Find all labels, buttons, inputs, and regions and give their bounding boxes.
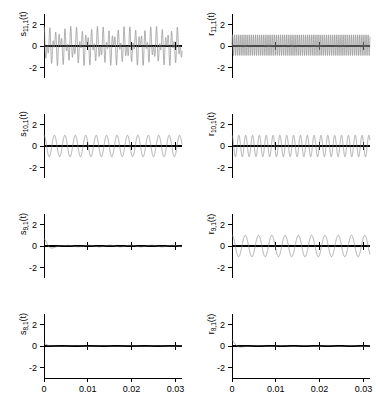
y-tick-label: 0 — [220, 241, 225, 251]
label-subscript: 10,1 — [210, 120, 217, 133]
y-axis-label-r-9-1: r9,1(t) — [206, 174, 220, 274]
label-argument: (t) — [18, 213, 28, 222]
label-subscript: 11,1 — [210, 21, 217, 33]
label-base: s — [18, 32, 28, 37]
signal-panel-grid: 20-2s11,1(t)20-2r11,1(t)20-2s10,1(t)20-2… — [0, 0, 376, 400]
signal-trace — [232, 339, 370, 347]
x-tick-label: 0.03 — [355, 384, 373, 394]
y-tick-label: 2 — [32, 20, 37, 30]
label-base: r — [206, 331, 216, 334]
label-argument: (t) — [18, 313, 28, 322]
label-argument: (t) — [206, 314, 216, 323]
label-subscript: 10,1 — [22, 120, 29, 133]
panel-r-8-1: 20-200.010.020.03r8,1(t) — [188, 300, 376, 400]
y-axis-label-r-8-1: r8,1(t) — [206, 274, 220, 374]
y-tick-label: 2 — [32, 120, 37, 130]
label-subscript: 9,1 — [22, 221, 29, 230]
y-axis-label-r-10-1: r10,1(t) — [206, 74, 220, 174]
panel-s-8-1: 20-200.010.020.03s8,1(t) — [0, 300, 188, 400]
label-argument: (t) — [18, 11, 28, 20]
y-axis-label-s-10-1: s10,1(t) — [18, 74, 32, 174]
label-base: r — [206, 33, 216, 36]
y-tick-label: 0 — [220, 141, 225, 151]
y-axis-label-s-8-1: s8,1(t) — [18, 274, 32, 374]
label-subscript: 8,1 — [210, 322, 217, 331]
signal-trace — [44, 238, 182, 248]
y-axis-label-s-11-1: s11,1(t) — [18, 0, 32, 74]
x-tick-label: 0.02 — [123, 384, 141, 394]
label-argument: (t) — [206, 112, 216, 121]
y-tick-label: 0 — [220, 41, 225, 51]
y-tick-label: 0 — [32, 41, 37, 51]
y-tick-label: 2 — [220, 20, 225, 30]
y-tick-label: 2 — [32, 220, 37, 230]
x-tick-label: 0.02 — [311, 384, 329, 394]
y-tick-label: 0 — [32, 341, 37, 351]
label-base: s — [18, 132, 28, 137]
x-tick-label: 0.01 — [79, 384, 97, 394]
label-argument: (t) — [18, 111, 28, 120]
y-axis-label-s-9-1: s9,1(t) — [18, 174, 32, 274]
x-tick-label: 0 — [41, 384, 46, 394]
label-base: r — [206, 133, 216, 136]
y-tick-label: 2 — [220, 120, 225, 130]
x-tick-label: 0.03 — [167, 384, 185, 394]
signal-trace — [232, 35, 370, 56]
y-tick-label: 0 — [32, 241, 37, 251]
label-subscript: 11,1 — [22, 20, 29, 32]
y-tick-label: 2 — [220, 320, 225, 330]
label-base: s — [18, 231, 28, 236]
x-tick-label: 0 — [229, 384, 234, 394]
y-tick-label: 2 — [220, 220, 225, 230]
label-base: s — [18, 331, 28, 336]
label-base: r — [206, 231, 216, 234]
label-subscript: 8,1 — [22, 321, 29, 330]
label-argument: (t) — [206, 12, 216, 21]
y-tick-label: 0 — [32, 141, 37, 151]
y-axis-label-r-11-1: r11,1(t) — [206, 0, 220, 74]
y-tick-label: 0 — [220, 341, 225, 351]
label-subscript: 9,1 — [210, 222, 217, 231]
y-tick-label: 2 — [32, 320, 37, 330]
label-argument: (t) — [206, 214, 216, 223]
x-tick-label: 0.01 — [267, 384, 285, 394]
